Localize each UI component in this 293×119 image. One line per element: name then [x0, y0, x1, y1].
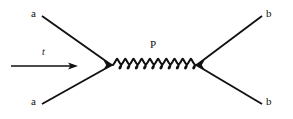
incoming-top-leg [42, 16, 110, 64]
propagator-label: P [150, 39, 156, 50]
diagram-canvas [0, 0, 293, 119]
incoming-bottom-leg [42, 66, 110, 104]
outgoing-bottom-leg [198, 66, 262, 104]
incoming-top-label: a [31, 8, 36, 19]
time-axis-label: t [42, 47, 45, 57]
outgoing-top-label: b [266, 8, 272, 19]
incoming-bottom-label: a [31, 96, 36, 107]
propagator-coil [113, 59, 195, 69]
outgoing-bottom-label: b [266, 96, 272, 107]
outgoing-top-leg [198, 16, 262, 64]
feynman-diagram-figure: a a b b P t [0, 0, 293, 119]
